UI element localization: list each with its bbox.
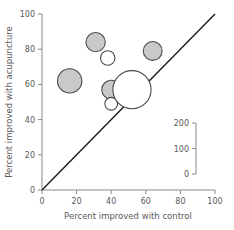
- y-axis-title: Percent improved with acupuncture: [4, 26, 14, 178]
- y-tick-label-20: 20: [25, 151, 35, 160]
- size-legend: 200 100 0: [174, 119, 196, 179]
- x-tick-label-40: 40: [106, 197, 116, 206]
- data-point-bubble: [101, 51, 115, 65]
- y-tick-label-100: 100: [20, 10, 35, 19]
- size-legend-label-200: 200: [174, 119, 189, 128]
- x-axis-title: Percent improved with control: [64, 211, 192, 221]
- size-legend-label-100: 100: [174, 145, 189, 154]
- data-point-bubble: [113, 71, 151, 109]
- x-tick-label-100: 100: [207, 197, 222, 206]
- data-point-group: [58, 33, 163, 111]
- x-tick-label-80: 80: [175, 197, 185, 206]
- y-tick-label-0: 0: [30, 186, 35, 195]
- x-axis: 0 20 40 60 80 100 Percent improved with …: [39, 190, 222, 221]
- data-point-bubble: [143, 42, 162, 61]
- scatter-plot-figure: 0 20 40 60 80 100 Percent improved with …: [0, 0, 234, 230]
- x-tick-label-0: 0: [39, 197, 44, 206]
- size-legend-label-0: 0: [184, 170, 189, 179]
- y-axis: 0 20 40 60 80 100 Percent improved with …: [4, 10, 42, 195]
- chart-canvas: 0 20 40 60 80 100 Percent improved with …: [0, 0, 234, 230]
- data-point-bubble: [58, 69, 82, 93]
- y-tick-label-60: 60: [25, 80, 35, 89]
- data-point-bubble: [86, 33, 105, 52]
- y-tick-label-80: 80: [25, 45, 35, 54]
- y-tick-label-40: 40: [25, 116, 35, 125]
- x-tick-label-20: 20: [72, 197, 82, 206]
- x-tick-label-60: 60: [141, 197, 151, 206]
